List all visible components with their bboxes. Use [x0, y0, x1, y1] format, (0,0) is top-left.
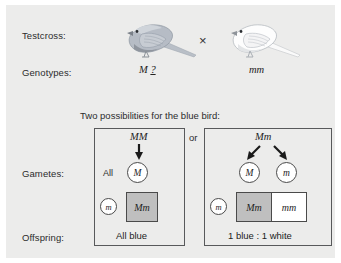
parent-genotype-left: M ?	[139, 64, 156, 75]
parent-genotype-left-allele: M	[139, 64, 148, 75]
right-gamete-circle-m: m	[276, 162, 297, 183]
blue-bird-icon	[122, 20, 198, 60]
right-punnett-cell-Mm: Mm	[236, 192, 272, 222]
left-gamete-circle-M: M	[127, 162, 148, 183]
right-gamete-circle-M: M	[239, 162, 260, 183]
genetics-testcross-figure: Testcross: Genotypes: Gametes: Offspring…	[0, 0, 341, 263]
left-gamete-arrow-icon	[130, 144, 154, 162]
right-parent-genotype: Mm	[255, 131, 271, 142]
left-parent-genotype: MM	[130, 131, 148, 142]
right-gamete-arrows-icon	[239, 144, 295, 164]
left-tester-gamete-circle-m: m	[100, 198, 117, 215]
parent-genotype-left-unknown: ?	[150, 64, 155, 75]
left-all-label: All	[103, 168, 113, 178]
possibilities-heading: Two possibilities for the blue bird:	[80, 110, 220, 121]
right-offspring-result: 1 blue : 1 white	[228, 230, 292, 241]
cross-symbol: ×	[199, 33, 207, 48]
row-label-gametes: Gametes:	[22, 168, 64, 179]
row-label-genotypes: Genotypes:	[22, 67, 72, 78]
left-punnett-cell-Mm: Mm	[126, 192, 158, 222]
left-offspring-result: All blue	[116, 230, 147, 241]
right-punnett-cell-mm: mm	[271, 192, 307, 222]
right-tester-gamete-circle-m: m	[210, 198, 227, 215]
row-label-testcross: Testcross:	[22, 30, 66, 41]
or-separator: or	[189, 132, 197, 143]
parent-genotype-right: mm	[249, 64, 264, 75]
white-bird-icon	[226, 20, 302, 60]
row-label-offspring: Offspring:	[22, 232, 64, 243]
